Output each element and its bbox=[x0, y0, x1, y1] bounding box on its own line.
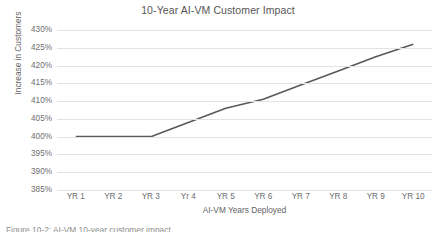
x-axis-title: AI-VM Years Deployed bbox=[57, 205, 432, 215]
gridline bbox=[57, 30, 432, 31]
x-axis-tick-label: YR 9 bbox=[367, 192, 385, 201]
x-axis-tick-label: Yr 4 bbox=[181, 192, 196, 201]
y-axis-tick-label: 410% bbox=[8, 96, 52, 105]
y-axis-tick-label: 430% bbox=[8, 25, 52, 34]
series-line-ai-vm-customer-impact bbox=[57, 30, 432, 190]
y-axis-tick-label: 405% bbox=[8, 114, 52, 123]
y-axis-tick-label: 385% bbox=[8, 185, 52, 194]
series-polyline bbox=[76, 44, 414, 136]
gridline bbox=[57, 101, 432, 102]
gridline bbox=[57, 172, 432, 173]
x-axis-tick-label: YR 10 bbox=[402, 192, 425, 201]
x-axis-tick-label: YR 7 bbox=[292, 192, 310, 201]
gridline bbox=[57, 83, 432, 84]
chart-title: 10-Year AI-VM Customer Impact bbox=[0, 4, 436, 16]
y-axis-tick-label: 420% bbox=[8, 61, 52, 70]
chart-figure: 10-Year AI-VM Customer Impact Increase i… bbox=[0, 0, 436, 232]
y-axis-tick-label: 395% bbox=[8, 149, 52, 158]
plot-area: 385%390%395%400%405%410%415%420%425%430% bbox=[57, 30, 432, 190]
y-axis-tick-label: 390% bbox=[8, 167, 52, 176]
x-axis-tick-label: YR 6 bbox=[254, 192, 272, 201]
y-axis-tick-label: 415% bbox=[8, 78, 52, 87]
x-axis-tick-label: YR 2 bbox=[104, 192, 122, 201]
gridline bbox=[57, 137, 432, 138]
x-axis-tick-label: YR 5 bbox=[217, 192, 235, 201]
x-axis-tick-label: YR 1 bbox=[67, 192, 85, 201]
y-axis-tick-label: 400% bbox=[8, 132, 52, 141]
figure-caption: Figure 10-2: AI-VM 10-year customer impa… bbox=[6, 225, 426, 232]
gridline bbox=[57, 190, 432, 191]
gridline bbox=[57, 154, 432, 155]
gridline bbox=[57, 66, 432, 67]
y-axis-tick-label: 425% bbox=[8, 43, 52, 52]
x-axis-tick-label: YR 3 bbox=[142, 192, 160, 201]
x-axis-tick-label: YR 8 bbox=[329, 192, 347, 201]
x-axis-tick-labels: YR 1YR 2YR 3Yr 4YR 5YR 6YR 7YR 8YR 9YR 1… bbox=[57, 192, 432, 204]
gridline bbox=[57, 48, 432, 49]
gridline bbox=[57, 119, 432, 120]
